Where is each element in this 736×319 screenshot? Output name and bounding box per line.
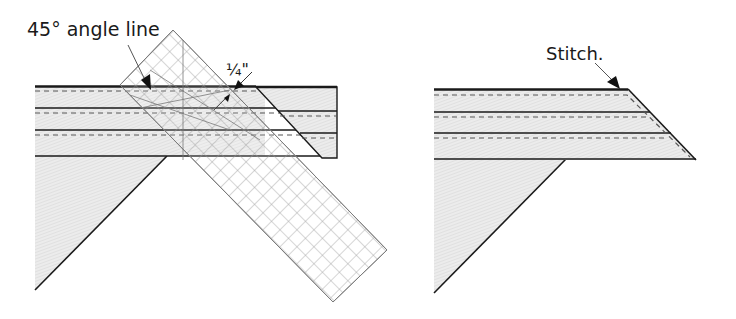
arrowhead-icon <box>607 76 620 89</box>
ruler <box>120 30 387 302</box>
stitch-label: Stitch. <box>546 43 604 64</box>
angle-line-label: 45° angle line <box>27 18 160 40</box>
right-figure: Stitch. <box>434 43 696 293</box>
diagram-canvas: 45° angle line ¼" Stitch. <box>0 0 736 319</box>
strip-set-right <box>434 89 696 160</box>
stitch-arrow <box>595 63 612 80</box>
left-figure: 45° angle line ¼" <box>27 18 387 302</box>
quarter-inch-label: ¼" <box>226 60 249 79</box>
